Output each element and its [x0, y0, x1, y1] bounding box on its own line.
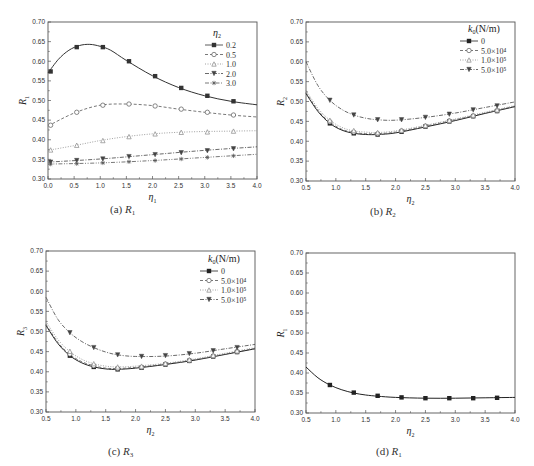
x-tick-label: 3.5 — [221, 415, 230, 422]
legend-entry: 1.0×10⁵ — [481, 56, 507, 65]
figure-caption: (d) R1 — [376, 445, 402, 459]
legend: k0(N/m)05.0×10⁴1.0×10⁵5.0×10⁵ — [200, 253, 247, 305]
data-point — [153, 158, 157, 162]
y-tick-label: 0.45 — [290, 118, 303, 125]
series-1.0-10- — [46, 321, 255, 369]
y-tick-label: 0.70 — [290, 18, 303, 25]
data-point — [179, 107, 183, 111]
series-3.0 — [48, 154, 257, 167]
x-tick-label: 2.5 — [174, 182, 183, 189]
legend-marker — [212, 43, 216, 47]
y-tick-label: 0.50 — [30, 328, 43, 335]
data-point — [153, 132, 157, 136]
data-point — [328, 383, 332, 387]
x-tick-label: 3.0 — [451, 184, 460, 191]
legend-title: k0(N/m) — [468, 23, 500, 35]
y-tick-label: 0.40 — [30, 368, 43, 375]
data-point — [231, 99, 235, 103]
y-tick-label: 0.70 — [290, 249, 303, 256]
legend: η20.20.51.02.03.0 — [205, 27, 236, 88]
y-tick-label: 0.65 — [290, 269, 303, 276]
legend-title: k0(N/m) — [208, 253, 240, 265]
y-tick-label: 0.45 — [32, 116, 45, 123]
y-tick-label: 0.55 — [30, 308, 43, 315]
data-point — [205, 130, 209, 134]
data-point — [75, 161, 79, 165]
x-tick-label: 2.0 — [148, 182, 157, 189]
y-tick-label: 0.65 — [290, 38, 303, 45]
data-point — [352, 113, 356, 117]
legend-marker — [212, 81, 216, 85]
y-tick-label: 0.35 — [32, 156, 45, 163]
series-0.5 — [48, 102, 257, 128]
legend-entry: 5.0×10⁴ — [221, 277, 247, 286]
y-tick-label: 0.55 — [32, 77, 45, 84]
y-tick-label: 0.55 — [290, 78, 303, 85]
y-tick-label: 0.65 — [32, 38, 45, 45]
y-tick-label: 0.35 — [290, 389, 303, 396]
series-line — [46, 325, 255, 369]
x-axis-label: η2 — [407, 193, 415, 206]
data-point — [101, 45, 105, 49]
y-tick-label: 0.50 — [290, 98, 303, 105]
x-axis: 0.51.01.52.02.53.03.54.0 — [41, 409, 259, 422]
legend-entry: 5.0×10⁵ — [481, 66, 507, 75]
x-axis: 0.51.01.52.02.53.03.54.0 — [301, 178, 519, 191]
series-line — [46, 297, 255, 356]
x-tick-label: 0.5 — [301, 416, 310, 423]
data-point — [48, 69, 52, 73]
y-tick-label: 0.45 — [290, 349, 303, 356]
data-point — [211, 349, 215, 353]
series-line — [48, 147, 257, 162]
chart-panel-d: 0.300.350.400.450.500.550.600.650.700.51… — [275, 249, 520, 459]
y-tick-label: 0.35 — [30, 388, 43, 395]
data-point — [127, 102, 131, 106]
legend-entry: 1.0 — [226, 60, 236, 69]
data-point — [471, 396, 475, 400]
data-point — [231, 113, 235, 117]
data-point — [179, 151, 183, 155]
data-point — [352, 390, 356, 394]
series-0 — [306, 94, 515, 137]
x-tick-label: 1.5 — [361, 416, 370, 423]
legend-entry: 5.0×10⁵ — [221, 296, 247, 305]
series-line — [48, 154, 257, 164]
x-tick-label: 0.5 — [41, 415, 50, 422]
chart-panel-a: 0.300.350.400.450.500.550.600.650.700.00… — [17, 18, 262, 217]
chart-panel-c: 0.300.350.400.450.500.550.600.650.700.51… — [15, 247, 260, 459]
y-tick-label: 0.60 — [30, 288, 43, 295]
series-line — [46, 324, 255, 368]
x-tick-label: 2.0 — [131, 415, 140, 422]
x-tick-label: 3.0 — [200, 182, 209, 189]
series-5.0-10- — [46, 297, 255, 358]
x-tick-label: 1.0 — [331, 416, 340, 423]
x-tick-label: 1.0 — [331, 184, 340, 191]
y-axis-label: R1 — [17, 96, 30, 106]
series-line — [306, 94, 515, 135]
series-R1 — [306, 367, 515, 400]
data-point — [48, 123, 52, 127]
figure-caption: (c) R3 — [108, 445, 134, 459]
series-line — [306, 90, 515, 132]
data-point — [179, 86, 183, 90]
x-tick-label: 1.5 — [122, 182, 131, 189]
data-point — [68, 349, 72, 353]
y-axis-label: R3 — [15, 327, 28, 337]
y-tick-label: 0.45 — [30, 348, 43, 355]
legend-entry: 0 — [221, 267, 225, 276]
data-point — [179, 157, 183, 161]
x-tick-label: 2.5 — [421, 184, 430, 191]
data-point — [127, 59, 131, 63]
legend-marker — [207, 278, 211, 282]
y-tick-label: 0.70 — [32, 18, 45, 25]
legend-marker — [467, 39, 471, 43]
x-tick-label: 2.0 — [391, 184, 400, 191]
legend-entry: 1.0×10⁵ — [221, 286, 247, 295]
x-tick-label: 0.5 — [301, 184, 310, 191]
data-point — [205, 149, 209, 153]
x-tick-label: 1.0 — [71, 415, 80, 422]
x-axis-label: η1 — [149, 191, 157, 204]
x-tick-label: 1.5 — [101, 415, 110, 422]
legend-entry: 3.0 — [226, 79, 236, 88]
y-tick-label: 0.50 — [32, 97, 45, 104]
